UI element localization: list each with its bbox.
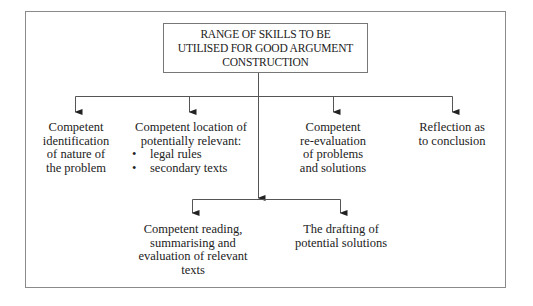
title-line: UTILISED FOR GOOD ARGUMENT bbox=[164, 41, 367, 55]
node-text: Reflection as bbox=[408, 121, 496, 135]
node-text: summarising and bbox=[135, 237, 251, 251]
node-text: to conclusion bbox=[408, 135, 496, 149]
node-text: evaluation of relevant bbox=[135, 250, 251, 264]
node-text: potentially relevant: bbox=[128, 135, 254, 149]
node-identification: Competent identification of nature of th… bbox=[28, 121, 124, 175]
node-text: of problems bbox=[290, 148, 376, 162]
node-text: The drafting of bbox=[290, 223, 392, 237]
node-text: Competent bbox=[28, 121, 124, 135]
bullet-item: •legal rules bbox=[128, 148, 254, 162]
node-text: texts bbox=[135, 264, 251, 278]
bullet-text: secondary texts bbox=[150, 161, 227, 175]
bullet-text: legal rules bbox=[150, 147, 202, 161]
node-text: Competent bbox=[290, 121, 376, 135]
title-box: RANGE OF SKILLS TO BE UTILISED FOR GOOD … bbox=[163, 23, 368, 73]
node-text: of nature of bbox=[28, 148, 124, 162]
title-line: CONSTRUCTION bbox=[164, 55, 367, 69]
bullet-list: •legal rules •secondary texts bbox=[128, 148, 254, 175]
node-text: the problem bbox=[28, 162, 124, 176]
node-text: Competent reading, bbox=[135, 223, 251, 237]
title-line: RANGE OF SKILLS TO BE bbox=[164, 27, 367, 41]
node-location: Competent location of potentially releva… bbox=[128, 121, 254, 175]
bullet-item: •secondary texts bbox=[128, 162, 254, 176]
node-text: potential solutions bbox=[290, 237, 392, 251]
node-re-evaluation: Competent re-evaluation of problems and … bbox=[290, 121, 376, 175]
node-reading: Competent reading, summarising and evalu… bbox=[135, 223, 251, 277]
node-text: Competent location of bbox=[128, 121, 254, 135]
node-drafting: The drafting of potential solutions bbox=[290, 223, 392, 250]
node-text: re-evaluation bbox=[290, 135, 376, 149]
bullet-icon: • bbox=[132, 148, 136, 162]
node-text: identification bbox=[28, 135, 124, 149]
bullet-icon: • bbox=[132, 162, 136, 176]
node-text: and solutions bbox=[290, 162, 376, 176]
node-reflection: Reflection as to conclusion bbox=[408, 121, 496, 148]
